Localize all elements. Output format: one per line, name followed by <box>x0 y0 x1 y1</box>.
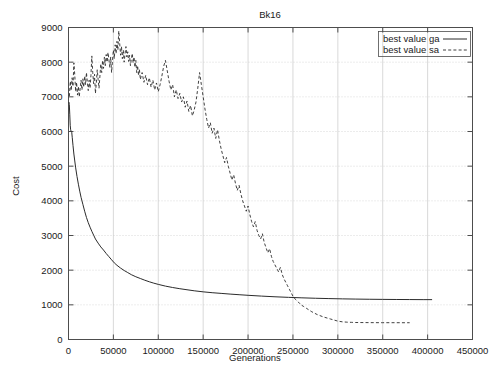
y-axis-title: Cost <box>10 176 21 196</box>
y-tick-label: 5000 <box>41 161 62 172</box>
y-tick-label: 0 <box>57 334 62 345</box>
x-tick-label: 300000 <box>322 345 354 356</box>
chart-title: Bk16 <box>259 9 281 20</box>
y-tick-label: 1000 <box>41 299 62 310</box>
legend-label-ga: best value ga <box>383 33 440 44</box>
y-tick-label: 9000 <box>41 22 62 33</box>
chart-container: 0100020003000400050006000700080009000 05… <box>0 0 502 370</box>
x-tick-label: 50000 <box>100 345 126 356</box>
legend-label-sa: best value sa <box>383 44 440 55</box>
y-tick-label: 3000 <box>41 230 62 241</box>
x-tick-label: 100000 <box>142 345 174 356</box>
x-tick-label: 0 <box>66 345 71 356</box>
x-tick-label: 450000 <box>457 345 489 356</box>
y-tick-label: 8000 <box>41 57 62 68</box>
x-tick-label: 250000 <box>277 345 309 356</box>
y-tick-label: 4000 <box>41 195 62 206</box>
y-tick-label: 6000 <box>41 126 62 137</box>
x-tick-label: 350000 <box>367 345 399 356</box>
x-tick-label: 150000 <box>187 345 219 356</box>
line-chart: 0100020003000400050006000700080009000 05… <box>0 0 502 370</box>
x-axis-title: Generations <box>229 352 281 363</box>
y-tick-label: 7000 <box>41 91 62 102</box>
x-tick-label: 400000 <box>412 345 444 356</box>
y-tick-label: 2000 <box>41 265 62 276</box>
chart-background <box>0 0 502 370</box>
